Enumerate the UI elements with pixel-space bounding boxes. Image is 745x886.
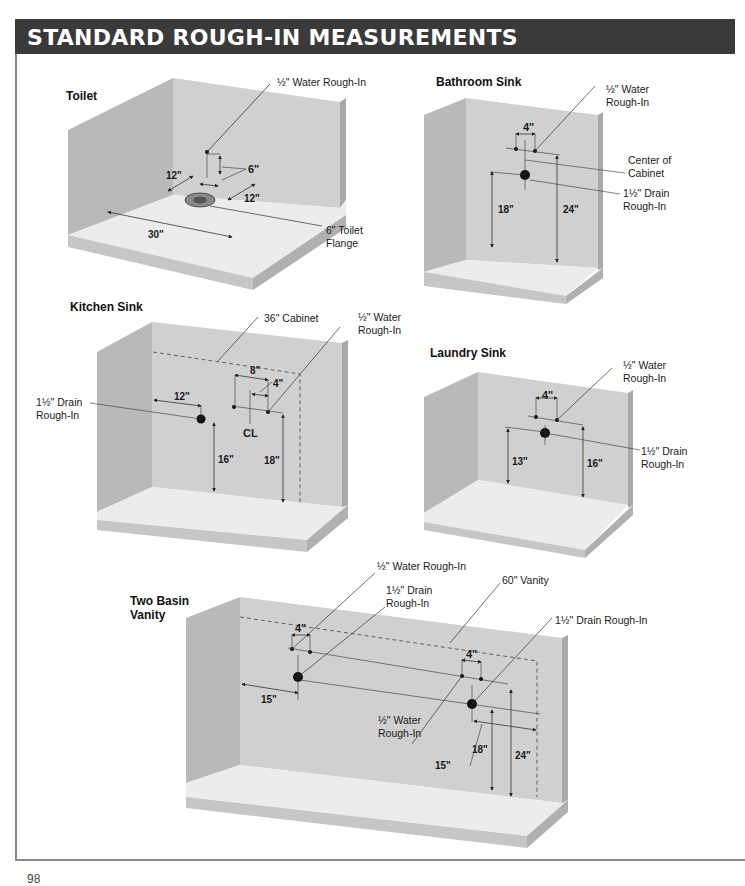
toilet-flange-label-1: 6" Toilet bbox=[326, 224, 363, 237]
bathroom-center-label-2: Cabinet bbox=[628, 167, 664, 180]
vanity-dim-18: 18" bbox=[472, 744, 488, 755]
vanity-water-bottom-label-2: Rough-In bbox=[378, 727, 421, 740]
vanity-dim-4-right: 4" bbox=[466, 648, 477, 660]
kitchen-centerline-label: CL bbox=[243, 427, 258, 439]
laundry-dim-16: 16" bbox=[587, 458, 603, 469]
bathroom-water-label-1: ½" Water bbox=[606, 83, 649, 96]
vanity-60-label: 60" Vanity bbox=[502, 574, 549, 587]
vanity-water-top-label: ½" Water Rough-In bbox=[377, 560, 466, 573]
laundry-dim-4: 4" bbox=[542, 389, 553, 401]
kitchen-sink-diagram bbox=[90, 317, 348, 552]
laundry-dim-13: 13" bbox=[512, 456, 528, 467]
kitchen-dim-12: 12" bbox=[174, 391, 190, 402]
two-basin-vanity-diagram bbox=[186, 573, 568, 848]
toilet-dim-6: 6" bbox=[248, 163, 259, 175]
kitchen-dim-18: 18" bbox=[264, 455, 280, 466]
bathroom-drain-label-2: Rough-In bbox=[623, 200, 666, 213]
kitchen-water-label-1: ½" Water bbox=[358, 311, 401, 324]
laundry-water-label-2: Rough-In bbox=[623, 372, 666, 385]
toilet-dim-12-right: 12" bbox=[244, 193, 260, 204]
laundry-drain-label-1: 1½" Drain bbox=[641, 445, 687, 458]
bathroom-dim-4: 4" bbox=[523, 121, 534, 133]
vanity-dim-15-left: 15" bbox=[261, 694, 277, 705]
vanity-dim-4-left: 4" bbox=[295, 622, 306, 634]
toilet-dim-12-left: 12" bbox=[166, 170, 182, 181]
vanity-dim-15-right: 15" bbox=[435, 760, 451, 771]
vanity-heading-2: Vanity bbox=[130, 608, 165, 623]
kitchen-dim-8: 8" bbox=[250, 365, 260, 376]
kitchen-sink-heading: Kitchen Sink bbox=[70, 300, 143, 315]
laundry-sink-diagram bbox=[424, 368, 640, 558]
vanity-drain-left-label-2: Rough-In bbox=[386, 597, 429, 610]
vanity-drain-right-label: 1½" Drain Rough-In bbox=[555, 614, 647, 627]
bathroom-drain-label-1: 1½" Drain bbox=[623, 187, 669, 200]
toilet-dim-30: 30" bbox=[148, 229, 164, 240]
bathroom-center-label-1: Center of bbox=[628, 154, 671, 167]
page-number: 98 bbox=[27, 872, 40, 886]
laundry-sink-heading: Laundry Sink bbox=[430, 346, 506, 361]
vanity-dim-24: 24" bbox=[515, 750, 531, 761]
laundry-drain-label-2: Rough-In bbox=[641, 458, 684, 471]
bathroom-dim-18: 18" bbox=[498, 204, 514, 215]
bathroom-water-label-2: Rough-In bbox=[606, 96, 649, 109]
bathroom-sink-heading: Bathroom Sink bbox=[436, 75, 521, 90]
toilet-heading: Toilet bbox=[66, 89, 97, 104]
kitchen-water-label-2: Rough-In bbox=[358, 324, 401, 337]
toilet-flange-label-2: Flange bbox=[326, 237, 358, 250]
toilet-diagram bbox=[68, 78, 346, 290]
bathroom-sink-diagram bbox=[424, 86, 625, 304]
laundry-water-label-1: ½" Water bbox=[623, 359, 666, 372]
bathroom-dim-24: 24" bbox=[563, 204, 579, 215]
vanity-heading-1: Two Basin bbox=[130, 594, 189, 609]
kitchen-dim-16: 16" bbox=[218, 454, 234, 465]
kitchen-drain-label-2: Rough-In bbox=[36, 409, 79, 422]
toilet-water-label: ½" Water Rough-In bbox=[277, 76, 366, 89]
vanity-drain-left-label-1: 1½" Drain bbox=[386, 584, 432, 597]
kitchen-drain-label-1: 1½" Drain bbox=[36, 396, 82, 409]
kitchen-dim-4: 4" bbox=[273, 378, 283, 389]
vanity-water-bottom-label-1: ½" Water bbox=[378, 714, 421, 727]
kitchen-cabinet-label: 36" Cabinet bbox=[264, 312, 319, 325]
